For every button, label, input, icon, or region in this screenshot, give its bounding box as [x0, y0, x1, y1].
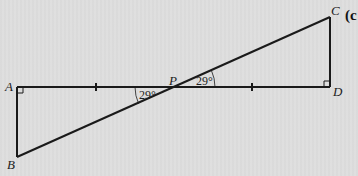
- angle-label-apb: 29°: [139, 89, 156, 101]
- geometry-diagram: [0, 0, 358, 176]
- point-label-p: P: [169, 74, 177, 87]
- point-label-c: C: [331, 4, 340, 17]
- part-label: (c: [345, 8, 357, 23]
- angle-label-cpd: 29°: [196, 75, 213, 87]
- point-label-a: A: [5, 80, 13, 93]
- point-label-d: D: [333, 85, 342, 98]
- point-label-b: B: [7, 158, 15, 171]
